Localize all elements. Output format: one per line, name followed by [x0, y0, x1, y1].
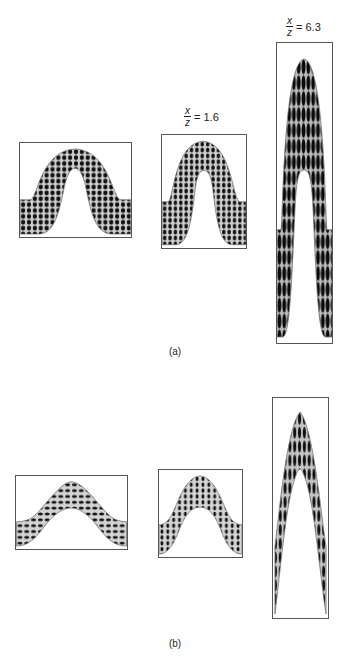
ratio-label-a2: x z = 1.6 — [184, 106, 219, 127]
fold-diagram-b1 — [16, 476, 127, 549]
strain-ratio-fraction: x z — [184, 106, 191, 127]
fold-diagram-b3 — [273, 398, 328, 618]
fold-diagram-a2 — [162, 135, 246, 248]
strain-ratio-value: = 6.3 — [296, 21, 321, 33]
panel-a3 — [276, 42, 333, 344]
fold-diagram-a1 — [20, 143, 131, 237]
strain-ratio-value: = 1.6 — [194, 111, 219, 123]
fold-diagram-b2 — [159, 470, 242, 557]
panel-b3 — [272, 397, 329, 619]
caption-b: (b) — [155, 638, 195, 649]
strain-ratio-fraction: x z — [286, 16, 293, 37]
panel-b2 — [158, 469, 243, 558]
panel-b1 — [15, 475, 128, 550]
ratio-label-a3: x z = 6.3 — [286, 16, 321, 37]
caption-a: (a) — [155, 346, 195, 357]
panel-a2 — [161, 134, 247, 249]
panel-a1 — [19, 142, 132, 238]
fold-diagram-a3 — [277, 43, 332, 343]
